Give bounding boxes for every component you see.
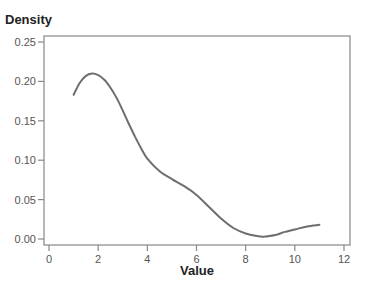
y-tick-label: 0.15 xyxy=(15,115,36,127)
y-axis: 0.000.050.100.150.200.25 xyxy=(15,36,44,245)
density-curve xyxy=(74,73,320,236)
density-chart: Density 0.000.050.100.150.200.25 0246810… xyxy=(0,0,366,284)
y-tick-label: 0.20 xyxy=(15,75,36,87)
x-tick-label: 10 xyxy=(289,253,301,265)
x-axis: 024681012 xyxy=(46,245,350,265)
x-tick-label: 2 xyxy=(95,253,101,265)
x-tick-label: 0 xyxy=(46,253,52,265)
y-tick-label: 0.00 xyxy=(15,233,36,245)
y-tick-label: 0.25 xyxy=(15,36,36,48)
x-axis-title: Value xyxy=(180,263,214,278)
x-tick-label: 8 xyxy=(243,253,249,265)
x-tick-label: 4 xyxy=(144,253,150,265)
chart-svg: Density 0.000.050.100.150.200.25 0246810… xyxy=(0,0,366,284)
y-tick-label: 0.10 xyxy=(15,154,36,166)
y-tick-label: 0.05 xyxy=(15,194,36,206)
plot-frame xyxy=(44,36,350,245)
y-axis-title: Density xyxy=(5,12,53,27)
x-tick-label: 12 xyxy=(338,253,350,265)
